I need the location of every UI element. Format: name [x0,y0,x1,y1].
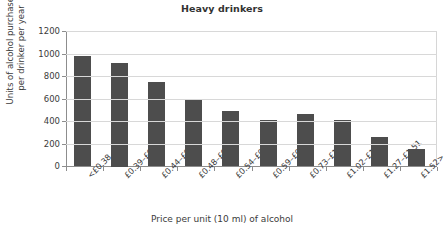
bar [334,120,351,166]
bar-chart-figure: Heavy drinkers Units of alcohol purchase… [0,0,444,234]
bar [111,63,128,167]
x-axis-tick-mark [66,167,67,171]
y-axis-tick-label: 1000 [18,49,60,59]
gridline [66,99,437,100]
y-axis-tick-label: 0 [18,161,60,171]
gridline [66,31,437,32]
bar [148,82,165,166]
bar [74,56,91,166]
bar [408,149,425,166]
y-axis-tick-label: 400 [18,116,60,126]
chart-title: Heavy drinkers [0,3,444,14]
y-axis-title-line-1: Units of alcohol purchased [5,0,16,121]
bar [260,120,277,166]
bar [222,111,239,166]
y-axis-tick-label: 1200 [18,26,60,36]
bar [185,100,202,166]
gridline [66,144,437,145]
y-axis-tick-label: 200 [18,139,60,149]
gridline [66,76,437,77]
bar [371,137,388,166]
y-axis-tick-label: 800 [18,71,60,81]
gridline [66,54,437,55]
y-axis-tick-label: 600 [18,94,60,104]
gridline [66,121,437,122]
x-axis-title: Price per unit (10 ml) of alcohol [0,214,444,224]
